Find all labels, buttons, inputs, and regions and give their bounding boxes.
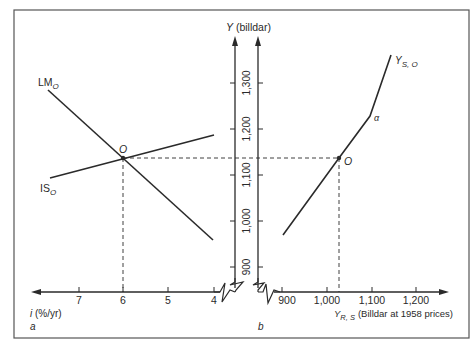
y-axis-title: Y (billdar) xyxy=(226,21,271,33)
x-tick-1000: 1,000 xyxy=(314,294,340,306)
equilibrium-label-b: O xyxy=(344,155,352,167)
panel-b-x-axis-title: YR, S(Billdar at 1958 prices) xyxy=(334,308,453,322)
equilibrium-point-b xyxy=(337,156,341,160)
aggregate-supply-curve xyxy=(283,55,391,235)
y-tick-1200: 1,200 xyxy=(241,116,252,141)
supply-curve-label: YS, O xyxy=(395,55,418,69)
is-curve xyxy=(50,135,214,178)
arrow-up-icon xyxy=(232,36,238,46)
x-tick-6: 6 xyxy=(120,294,126,306)
panel-a-x-axis-title: i (%/yr) xyxy=(30,308,62,319)
arrow-right-icon xyxy=(439,289,449,295)
is-label: ISO xyxy=(40,182,56,197)
x-tick-900: 900 xyxy=(278,294,296,306)
vertical-axis-left xyxy=(232,36,238,288)
equilibrium-point-a xyxy=(121,156,125,160)
arrow-up-icon xyxy=(255,36,261,46)
panel-b-label: b xyxy=(258,321,264,332)
axis-break-icon xyxy=(214,278,280,303)
y-tick-1100: 1,100 xyxy=(241,162,252,187)
arrow-left-icon xyxy=(31,289,41,295)
lm-label: LMO xyxy=(38,76,59,91)
equilibrium-label-a: O xyxy=(119,143,127,155)
panel-b-x-axis: 900 1,000 1,100 1,200 YR, S(Billdar at 1… xyxy=(258,287,453,332)
vertical-axis-right xyxy=(255,36,261,288)
panel-a-x-axis: 7 6 5 4 i (%/yr) a xyxy=(30,287,220,332)
x-tick-7: 7 xyxy=(76,294,82,306)
lm-curve xyxy=(48,90,213,240)
x-tick-1200: 1,200 xyxy=(403,294,429,306)
panel-a-label: a xyxy=(30,321,36,332)
y-tick-1000: 1,000 xyxy=(241,208,252,233)
diagram-canvas: 1,300 1,200 1,100 1,000 900 Y (billdar) … xyxy=(0,0,473,356)
vertical-axis-tick-labels: 1,300 1,200 1,100 1,000 900 xyxy=(241,70,252,275)
y-tick-1300: 1,300 xyxy=(241,70,252,95)
kink-alpha-label: α xyxy=(374,113,380,123)
x-tick-4: 4 xyxy=(211,294,217,306)
y-tick-900: 900 xyxy=(241,258,252,275)
x-tick-5: 5 xyxy=(165,294,171,306)
x-tick-1100: 1,100 xyxy=(359,294,385,306)
equilibrium-guides xyxy=(123,158,339,292)
